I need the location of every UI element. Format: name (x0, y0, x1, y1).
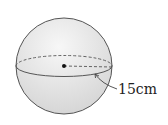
sphere-diagram: 15cm (0, 0, 168, 125)
center-point (62, 64, 66, 68)
radius-label: 15cm (118, 81, 157, 97)
